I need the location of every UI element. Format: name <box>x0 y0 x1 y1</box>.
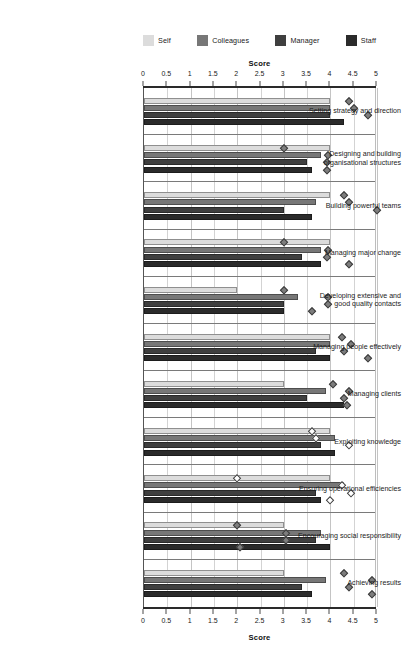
category-label: Ensuring operational efficiencies <box>270 485 406 494</box>
x-tick-label: 2 <box>234 617 238 624</box>
legend-item-self: Self <box>143 35 171 46</box>
category-label-line: Encouraging social responsibility <box>270 532 401 541</box>
axis-title-top: Score <box>143 59 376 68</box>
category-label-line: Building powerful teams <box>270 202 401 211</box>
category-label: Setting strategy and direction <box>270 107 406 116</box>
bar-staff <box>144 591 312 597</box>
category-label-line: Exploiting knowledge <box>270 438 401 447</box>
category-label-line: Ensuring operational efficiencies <box>270 485 401 494</box>
category-label: Designing and buildingorganisational str… <box>270 150 406 167</box>
category-label: Exploiting knowledge <box>270 438 406 447</box>
bar-staff <box>144 450 335 456</box>
x-tickmark <box>352 609 353 614</box>
category-label-line: Achieving results <box>270 579 401 588</box>
bar-manager <box>144 207 284 213</box>
legend-label: Colleagues <box>212 36 249 45</box>
x-tick-label: 1.5 <box>208 617 218 624</box>
category-label: Achieving results <box>270 579 406 588</box>
category-label: Managing clients <box>270 390 406 399</box>
x-tickmark <box>259 609 260 614</box>
x-tick-label: 4 <box>327 70 331 77</box>
bar-self <box>144 570 284 576</box>
x-tick-label: 5 <box>374 617 378 624</box>
x-axis-tick-labels-top: 00.511.522.533.544.55 <box>143 70 376 80</box>
category-label: Building powerful teams <box>270 202 406 211</box>
x-tick-label: 4.5 <box>348 70 358 77</box>
x-tick-label: 1 <box>188 70 192 77</box>
x-tickmark <box>189 609 190 614</box>
x-tickmark <box>166 609 167 614</box>
bar-staff <box>144 308 284 314</box>
x-tick-label: 2.5 <box>255 617 265 624</box>
legend-label: Manager <box>290 36 319 45</box>
bar-self <box>144 428 330 434</box>
x-tick-label: 0 <box>141 70 145 77</box>
x-tick-label: 4.5 <box>348 617 358 624</box>
chart-legend: SelfColleaguesManagerStaff <box>143 32 376 48</box>
legend-label: Self <box>158 36 171 45</box>
legend-item-staff: Staff <box>346 35 376 46</box>
x-tickmark <box>306 609 307 614</box>
x-tickmark <box>236 609 237 614</box>
category-label-line: Managing people effectively <box>270 343 401 352</box>
bar-staff <box>144 214 312 220</box>
x-tick-label: 3 <box>281 70 285 77</box>
legend-swatch-icon <box>143 35 154 46</box>
bar-self <box>144 239 330 245</box>
bar-staff <box>144 261 321 267</box>
x-tick-label: 3.5 <box>301 70 311 77</box>
x-tick-label: 5 <box>374 70 378 77</box>
x-axis-tickmarks-bottom <box>143 609 376 614</box>
x-tickmark <box>282 609 283 614</box>
category-label-line: Managing clients <box>270 390 401 399</box>
bar-staff <box>144 497 321 503</box>
bar-self <box>144 192 330 198</box>
bar-self <box>144 98 330 104</box>
category-label-line: Designing and building <box>270 150 401 159</box>
legend-item-colleagues: Colleagues <box>197 35 249 46</box>
bar-staff <box>144 355 330 361</box>
category-label: Encouraging social responsibility <box>270 532 406 541</box>
bar-staff <box>144 119 344 125</box>
x-tick-label: 0 <box>141 617 145 624</box>
legend-item-manager: Manager <box>275 35 319 46</box>
legend-swatch-icon <box>197 35 208 46</box>
bar-staff <box>144 402 344 408</box>
bar-self <box>144 287 237 293</box>
x-tick-label: 1.5 <box>208 70 218 77</box>
category-label-line: good quality contacts <box>270 300 401 309</box>
x-axis-tick-labels-bottom: 00.511.522.533.544.55 <box>143 617 376 627</box>
category-label: Managing people effectively <box>270 343 406 352</box>
category-label-line: Managing major change <box>270 249 401 258</box>
x-tick-label: 3 <box>281 617 285 624</box>
x-tick-label: 3.5 <box>301 617 311 624</box>
category-label: Managing major change <box>270 249 406 258</box>
chart-container: SelfColleaguesManagerStaff Score 00.511.… <box>0 0 406 659</box>
x-tickmark <box>376 609 377 614</box>
category-label: Developing extensive andgood quality con… <box>270 292 406 309</box>
bar-self <box>144 334 330 340</box>
x-tick-label: 0.5 <box>161 70 171 77</box>
x-tickmark <box>212 609 213 614</box>
category-label-line: organisational structures <box>270 159 401 168</box>
bar-staff <box>144 167 312 173</box>
x-tick-label: 4 <box>327 617 331 624</box>
x-tickmark <box>143 609 144 614</box>
x-tickmark <box>329 609 330 614</box>
x-tick-label: 1 <box>188 617 192 624</box>
bar-self <box>144 381 284 387</box>
category-label-line: Setting strategy and direction <box>270 107 401 116</box>
legend-swatch-icon <box>346 35 357 46</box>
legend-swatch-icon <box>275 35 286 46</box>
bar-manager <box>144 301 284 307</box>
axis-title-bottom: Score <box>143 633 376 642</box>
category-label-line: Developing extensive and <box>270 292 401 301</box>
legend-label: Staff <box>361 36 376 45</box>
bar-self <box>144 522 284 528</box>
x-tick-label: 2 <box>234 70 238 77</box>
x-tick-label: 2.5 <box>255 70 265 77</box>
x-tick-label: 0.5 <box>161 617 171 624</box>
